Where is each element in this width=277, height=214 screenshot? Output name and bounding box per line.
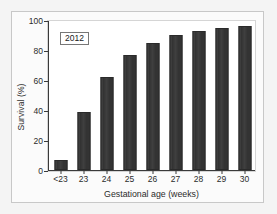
bar-group: 26 bbox=[141, 20, 164, 170]
figure-page: Survival (%) 020406080100 2012 <23232425… bbox=[0, 0, 277, 214]
bar-30 bbox=[238, 26, 251, 170]
bar-23 bbox=[77, 112, 90, 171]
x-tick-label: 27 bbox=[171, 175, 180, 184]
y-tick-mark bbox=[44, 111, 48, 112]
bar-group: 24 bbox=[95, 20, 118, 170]
bar-group: 29 bbox=[210, 20, 233, 170]
y-axis-title: Survival (%) bbox=[16, 83, 26, 130]
y-tick-label: 20 bbox=[34, 137, 43, 146]
bar-24 bbox=[100, 77, 113, 170]
y-tick-label: 40 bbox=[34, 107, 43, 116]
bar-group: 25 bbox=[118, 20, 141, 170]
y-tick-mark bbox=[44, 81, 48, 82]
y-tick-mark bbox=[44, 51, 48, 52]
bar-group: 23 bbox=[72, 20, 95, 170]
x-tick-label: 26 bbox=[148, 175, 157, 184]
x-tick-label: 25 bbox=[125, 175, 134, 184]
bar-27 bbox=[169, 35, 182, 170]
x-tick-label: 24 bbox=[102, 175, 111, 184]
x-tick-label: 30 bbox=[240, 175, 249, 184]
bar-29 bbox=[215, 28, 228, 171]
y-tick-mark bbox=[44, 171, 48, 172]
x-tick-label: 28 bbox=[194, 175, 203, 184]
figure-panel: Survival (%) 020406080100 2012 <23232425… bbox=[11, 11, 264, 203]
x-axis-title: Gestational age (weeks) bbox=[47, 189, 256, 199]
bar-28 bbox=[192, 31, 205, 171]
bar-group: 28 bbox=[187, 20, 210, 170]
y-tick-label: 0 bbox=[38, 167, 43, 176]
bar-group: 30 bbox=[233, 20, 256, 170]
plot-area: 020406080100 2012 <232324252627282930 bbox=[47, 20, 256, 172]
bar-25 bbox=[123, 55, 136, 171]
y-tick-label: 60 bbox=[34, 77, 43, 86]
bar-group: 27 bbox=[164, 20, 187, 170]
bar-26 bbox=[146, 43, 159, 171]
x-tick-label: 23 bbox=[79, 175, 88, 184]
bar-group: <23 bbox=[49, 20, 72, 170]
y-tick-label: 80 bbox=[34, 47, 43, 56]
y-tick-mark bbox=[44, 141, 48, 142]
x-tick-label: 29 bbox=[217, 175, 226, 184]
bar-series: <232324252627282930 bbox=[49, 21, 255, 170]
x-tick-label: <23 bbox=[53, 175, 67, 184]
bar-<23 bbox=[54, 160, 67, 171]
y-tick-mark bbox=[44, 21, 48, 22]
y-tick-label: 100 bbox=[29, 17, 43, 26]
